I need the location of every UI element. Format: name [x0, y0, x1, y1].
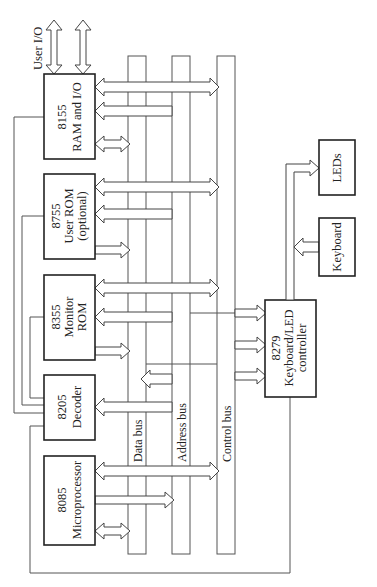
arrow-8355-data: [95, 343, 130, 359]
label-8085-name: Microprocessor: [70, 460, 84, 539]
label-leds: LEDs: [330, 153, 344, 182]
label-8355-num: 8355: [49, 305, 63, 330]
arrow-control-8279-3: [235, 368, 266, 384]
arrow-8085-data: [95, 523, 130, 539]
label-8279-num: 8279: [269, 336, 283, 361]
label-8355-rom: ROM: [75, 303, 89, 331]
control-bus: [217, 56, 235, 554]
label-8755-note: (optional): [75, 191, 89, 240]
control-bus-label: Control bus: [220, 405, 234, 462]
arrow-8085-control: [95, 462, 219, 480]
label-8205-name: Decoder: [70, 385, 84, 428]
user-io-arrow-2: [75, 20, 91, 74]
block-diagram: Data bus Address bus Control bus User I/…: [0, 0, 377, 587]
cs-wire-8155: [14, 117, 44, 413]
arrow-8155-data: [95, 136, 130, 152]
label-8279-sub: controller: [295, 323, 309, 372]
label-8755-name: User ROM: [62, 188, 76, 243]
label-8755-num: 8755: [49, 204, 63, 229]
label-8355-name: Monitor: [62, 296, 76, 338]
arrow-8155-control: [95, 78, 219, 96]
label-8155-num: 8155: [55, 105, 69, 130]
user-io-arrow-1: [46, 20, 62, 74]
arrow-control-8279-1: [235, 305, 266, 321]
label-8155-name: RAM and I/O: [70, 82, 84, 151]
cs-wire-8755: [22, 216, 44, 405]
user-io-label: User I/O: [31, 27, 45, 70]
label-8279-name: Keyboard/LED: [282, 309, 296, 386]
arrow-keyboard-8279: [294, 238, 319, 256]
data-bus-label: Data bus: [131, 419, 145, 462]
label-8085-num: 8085: [55, 488, 69, 513]
data-bus: [128, 56, 146, 554]
address-bus-label: Address bus: [175, 403, 189, 462]
label-keyboard: Keyboard: [330, 222, 344, 272]
arrow-control-8279-2: [235, 337, 266, 353]
address-bus: [172, 56, 190, 554]
arrow-8755-data: [95, 242, 130, 258]
arrow-8279-leds: [286, 160, 319, 300]
label-8205-num: 8205: [55, 395, 69, 420]
cs-wire-8355: [30, 317, 44, 398]
arrow-8355-control: [95, 279, 219, 297]
arrow-8755-control: [95, 178, 219, 196]
